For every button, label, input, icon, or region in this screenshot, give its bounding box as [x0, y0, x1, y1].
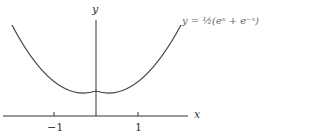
y-axis-label: y [92, 3, 98, 16]
tick-label-neg1: −1 [47, 121, 63, 134]
x-axis-label: x [194, 108, 200, 121]
curve-label: y = ½(eˣ + e⁻ˣ) [182, 15, 259, 26]
tick-label-pos1: 1 [135, 121, 142, 134]
